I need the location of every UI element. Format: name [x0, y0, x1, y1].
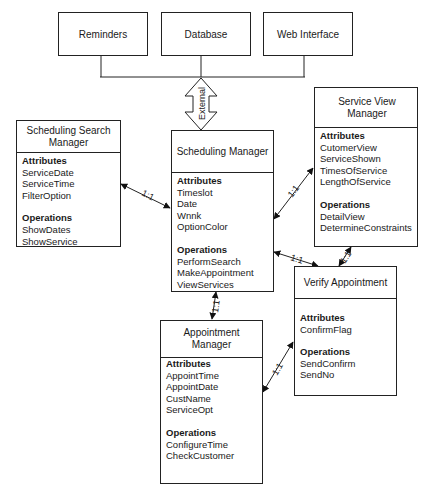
web-interface-label: Web Interface — [277, 29, 339, 40]
attribute: ServiceOpt — [166, 404, 257, 416]
appointment-manager-class: Appointment Manager Attributes AppointTi… — [160, 320, 263, 484]
operation: SendConfirm — [300, 358, 391, 370]
attributes-heading: Attributes — [300, 312, 391, 324]
service-view-manager-class: Service View Manager Attributes CutomerV… — [314, 87, 418, 247]
operation: ShowService — [22, 236, 115, 248]
attribute: TimesOfService — [320, 165, 412, 177]
class-title: Scheduling Search Manager — [17, 121, 120, 153]
class-title: Service View Manager — [315, 88, 417, 128]
class-title: Verify Appointment — [295, 267, 396, 299]
verify-appointment-class: Verify Appointment Attributes ConfirmFla… — [294, 266, 397, 396]
operation: SendNo — [300, 369, 391, 381]
attribute: ConfirmFlag — [300, 324, 391, 336]
attributes-heading: Attributes — [166, 358, 257, 370]
attribute: ServiceShown — [320, 153, 412, 165]
operation: DetailView — [320, 211, 412, 223]
attributes-heading: Attributes — [320, 130, 412, 142]
operations-heading: Operations — [22, 212, 115, 224]
cardinality-label: 1:1 — [338, 249, 353, 265]
class-title: Appointment Manager — [161, 321, 262, 358]
reminders-box: Reminders — [58, 12, 148, 56]
attribute: OptionColor — [177, 221, 268, 233]
attribute: Date — [177, 198, 268, 210]
external-label: External — [197, 87, 207, 120]
attribute: AppointTime — [166, 370, 257, 382]
operation: MakeAppointment — [177, 267, 268, 279]
attribute: LengthOfService — [320, 176, 412, 188]
reminders-label: Reminders — [79, 29, 127, 40]
operation: DetermineConstraints — [320, 222, 412, 234]
operations-heading: Operations — [166, 427, 257, 439]
scheduling-manager-class: Scheduling Manager Attributes Timeslot D… — [171, 130, 274, 292]
operations-heading: Operations — [320, 199, 412, 211]
database-box: Database — [161, 12, 251, 56]
class-title: Scheduling Manager — [172, 131, 273, 173]
attribute: CustName — [166, 393, 257, 405]
attributes-heading: Attributes — [22, 155, 115, 167]
scheduling-search-manager-class: Scheduling Search Manager Attributes Ser… — [16, 120, 121, 247]
attributes-heading: Attributes — [177, 175, 268, 187]
operation: ShowDates — [22, 224, 115, 236]
database-label: Database — [185, 29, 228, 40]
cardinality-label: 1:1 — [210, 299, 222, 313]
attribute: AppointDate — [166, 381, 257, 393]
operation: ConfigureTime — [166, 439, 257, 451]
operation: PerformSearch — [177, 256, 268, 268]
attribute: CutomerView — [320, 142, 412, 154]
operation: CheckCustomer — [166, 450, 257, 462]
attribute: ServiceDate — [22, 167, 115, 179]
attribute: FilterOption — [22, 190, 115, 202]
attribute: Timeslot — [177, 187, 268, 199]
operations-heading: Operations — [300, 346, 391, 358]
web-interface-box: Web Interface — [263, 12, 353, 56]
operations-heading: Operations — [177, 244, 268, 256]
cardinality-label: 1:1 — [270, 361, 285, 377]
operation: ViewServices — [177, 279, 268, 291]
external-bus — [100, 55, 305, 77]
attribute: ServiceTime — [22, 178, 115, 190]
attribute: Wnnk — [177, 210, 268, 222]
cardinality-label: 1:1 — [289, 252, 304, 265]
